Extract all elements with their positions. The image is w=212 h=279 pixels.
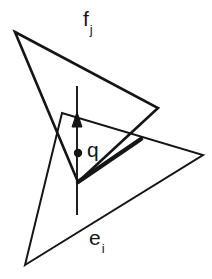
figure-canvas: fj q ei [0, 0, 212, 279]
label-q-base: q [87, 138, 99, 161]
label-f-j-subscript: j [90, 22, 93, 37]
triangle-ei [25, 113, 203, 265]
label-f-j: fj [83, 8, 92, 32]
label-e-i: ei [89, 227, 104, 251]
line-drawing [0, 0, 212, 279]
label-f-j-base: f [83, 7, 89, 30]
label-e-i-base: e [89, 226, 101, 249]
point-q-marker [74, 149, 82, 157]
label-q: q [87, 139, 99, 160]
label-e-i-subscript: i [102, 241, 105, 256]
